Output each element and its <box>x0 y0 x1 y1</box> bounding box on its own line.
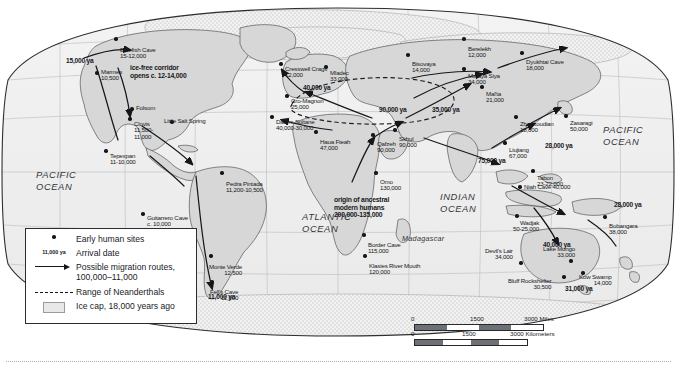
arrival-date-icon: 11,000 ya <box>32 248 76 255</box>
migration-date-label: 11,000 ya <box>208 294 235 301</box>
site-label: Zhoukoudian 18,000 <box>520 121 554 134</box>
site-label: Marmes 10,500 <box>101 69 122 82</box>
site-label: Bluff Rockshelter 30,500 <box>508 278 551 291</box>
site-dot <box>314 130 317 133</box>
footer-divider <box>6 361 671 362</box>
site-dot-icon <box>32 234 76 239</box>
site-label: Skhul 90,000 <box>399 136 417 149</box>
site-label: Border Cave 115,000 <box>368 242 401 255</box>
legend-row-arrival-date: 11,000 ya Arrival date <box>32 248 190 258</box>
site-dot <box>514 115 517 118</box>
dashed-line-icon <box>32 287 76 293</box>
site-dot <box>362 233 365 236</box>
site-label: Dar es-Soltane 40,000-30,000 <box>276 119 314 132</box>
legend-label-neanderthals: Range of Neanderthals <box>76 287 164 297</box>
site-dot <box>141 212 144 215</box>
legend-label-arrival-date: Arrival date <box>76 248 119 258</box>
site-dot <box>210 280 213 283</box>
legend-row-neanderthals: Range of Neanderthals <box>32 287 190 297</box>
legend-row-migration-routes: Possible migration routes, 100,000–11,00… <box>32 262 190 282</box>
site-label: Bisovaya 14,000 <box>412 61 436 74</box>
scale-miles-end: 3000 Miles <box>524 315 554 322</box>
site-dot <box>104 149 107 152</box>
arrow-icon <box>32 262 76 270</box>
site-dot <box>324 65 327 68</box>
site-dot <box>462 67 465 70</box>
ocean-label: INDIAN OCEAN <box>440 191 476 215</box>
site-label: Haua Fteah 47,000 <box>320 139 350 152</box>
site-dot <box>209 254 212 257</box>
site-label: Little Salt Spring <box>164 118 205 124</box>
scale-km-mid: 1500 <box>462 330 476 337</box>
migration-date-label: 28,000 ya <box>614 202 642 209</box>
site-label: Wadjak 50-25,000 <box>513 220 539 233</box>
map-figure: Bluefish Cave 15-12,000Marmes 10,500Fols… <box>0 0 677 373</box>
site-dot <box>393 128 396 131</box>
site-label: Guitarrero Cave c. 10,000 <box>147 215 188 228</box>
site-dot <box>603 215 606 218</box>
migration-date-label: 75,000 ya <box>478 158 506 165</box>
legend-row-sites: Early human sites <box>32 234 190 244</box>
scale-km-end: 3000 Kilometers <box>510 330 555 337</box>
ocean-label: PACIFIC OCEAN <box>603 124 644 148</box>
site-label: Klasies River Mouth 120,000 <box>369 263 420 276</box>
legend-row-ice-cap: Ice cap, 18,000 years ago <box>32 301 190 313</box>
migration-date-label: 40,000 ya <box>543 242 571 249</box>
site-label: Berelekh 12,000 <box>468 46 491 59</box>
site-label: Bluefish Cave 15-12,000 <box>120 47 156 60</box>
site-dot <box>515 214 518 217</box>
site-label: Clovis 11,500- 11,000 <box>134 121 153 140</box>
site-label: Dyukhtai Cave 18,000 <box>526 59 564 72</box>
migration-date-label: 15,000 ya <box>66 58 94 65</box>
site-dot <box>562 275 565 278</box>
site-label: Qafzeh 90,000 <box>377 141 396 154</box>
migration-date-label: 31,000 ya <box>565 286 593 293</box>
legend-label-ice-cap: Ice cap, 18,000 years ago <box>76 301 175 311</box>
site-dot <box>569 259 572 262</box>
site-dot <box>564 114 567 117</box>
arrival-date-sample: 11,000 ya <box>42 249 66 255</box>
site-dot <box>128 117 131 120</box>
region-label: Madagascar <box>402 235 445 242</box>
scale-km-zero: 0 <box>411 330 414 337</box>
site-dot <box>406 53 409 56</box>
site-label: Tepexpan 11-10,000 <box>110 153 136 166</box>
migration-date-label: 90,000 ya <box>379 107 407 114</box>
migration-date-label: 28,000 ya <box>545 143 573 150</box>
site-dot <box>114 37 117 40</box>
site-dot <box>363 254 366 257</box>
site-label: Niah Cave 40,000 <box>524 184 570 190</box>
ice-cap-swatch-icon <box>32 301 76 313</box>
site-dot <box>531 169 534 172</box>
site-label: Cresswell Crags 12,000 <box>285 66 327 79</box>
legend-label-sites: Early human sites <box>76 234 144 244</box>
site-dot <box>503 141 506 144</box>
site-label: Devil's Lair 34,000 <box>485 248 513 261</box>
legend-label-migration-routes: Possible migration routes, 100,000–11,00… <box>76 262 190 282</box>
site-dot <box>95 71 98 74</box>
scale-bar-kilometers <box>414 339 528 346</box>
site-label: Mal'ta 21,000 <box>486 91 504 104</box>
site-label: Omo 130,000 <box>380 179 401 192</box>
scale-bar: 0 1500 3000 Miles 0 1500 3000 Kilometers <box>404 318 584 348</box>
site-dot <box>285 94 288 97</box>
site-dot <box>374 171 377 174</box>
site-label: Liujiang 67,000 <box>509 147 529 160</box>
migration-date-label: 35,000 ya <box>432 107 460 114</box>
site-dot <box>270 115 273 118</box>
ocean-label: PACIFIC OCEAN <box>36 169 77 193</box>
site-label: Zasaragi 50,000 <box>570 120 592 133</box>
site-dot <box>279 62 282 65</box>
site-dot <box>220 171 223 174</box>
site-dot <box>371 133 374 136</box>
site-label: Mladec 33,000 <box>330 70 349 83</box>
site-dot <box>518 185 521 188</box>
site-dot <box>519 261 522 264</box>
site-dot <box>462 37 465 40</box>
site-label: Pedra Pintada 11,200-10,500 <box>226 181 263 194</box>
map-legend: Early human sites 11,000 ya Arrival date… <box>25 228 197 324</box>
site-label: Mataya Siya 34,000 <box>468 73 500 86</box>
site-label: Bobangara 38,000 <box>609 223 637 236</box>
migration-date-label: 40,000 ya <box>303 85 331 92</box>
scale-miles-zero: 0 <box>411 315 414 322</box>
